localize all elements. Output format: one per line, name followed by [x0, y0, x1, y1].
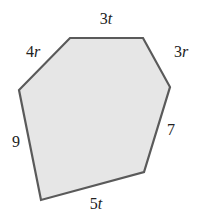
side-label-bottom: 5t: [90, 196, 102, 212]
side-label-right: 7: [167, 122, 175, 138]
coef-text: 7: [167, 121, 175, 138]
coef-text: 9: [12, 133, 20, 150]
var-text: t: [98, 195, 102, 212]
var-text: t: [108, 10, 112, 27]
coef-text: 3: [174, 43, 182, 60]
coef-text: 3: [100, 10, 108, 27]
polygon-figure: 3t 3r 7 5t 9 4r: [0, 0, 198, 212]
coef-text: 4: [26, 43, 34, 60]
hexagon-shape: [0, 0, 198, 212]
side-label-upper-left: 4r: [26, 44, 40, 60]
side-label-left: 9: [12, 134, 20, 150]
coef-text: 5: [90, 195, 98, 212]
side-label-top: 3t: [100, 11, 112, 27]
var-text: r: [34, 43, 40, 60]
hexagon-polygon: [19, 38, 170, 200]
side-label-upper-right: 3r: [174, 44, 188, 60]
var-text: r: [182, 43, 188, 60]
